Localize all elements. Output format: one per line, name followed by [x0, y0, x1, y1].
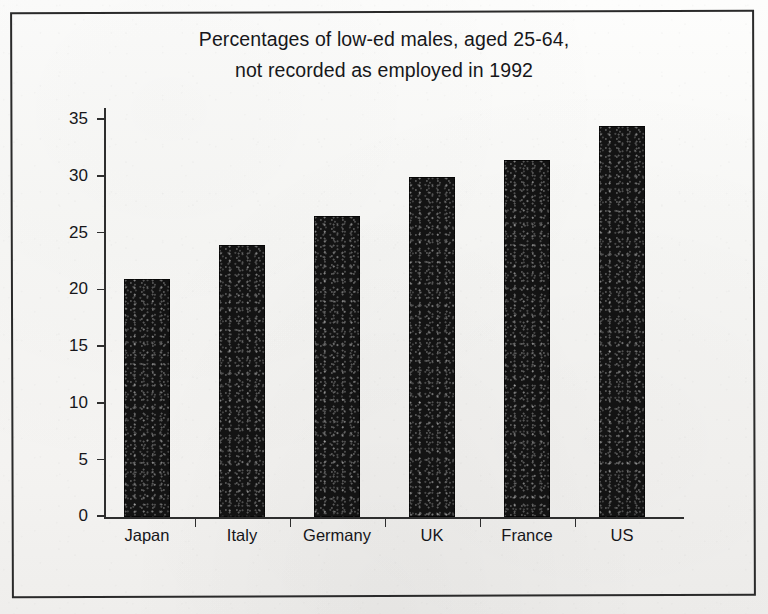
y-axis-tick-label: 15: [69, 336, 88, 356]
x-axis-tick: [290, 519, 292, 527]
x-axis-category-label: Germany: [303, 526, 371, 545]
y-axis-tick-label: 35: [69, 109, 88, 129]
y-axis-tick: 15: [97, 345, 105, 347]
chart-title: Percentages of low-ed males, aged 25-64,…: [0, 24, 768, 86]
scanned-chart-page: Percentages of low-ed males, aged 25-64,…: [0, 0, 768, 614]
y-axis-line: [104, 108, 106, 519]
y-axis-tick-label: 5: [79, 450, 88, 470]
chart-title-line-1: Percentages of low-ed males, aged 25-64,: [199, 28, 569, 50]
x-axis-tick: [385, 519, 387, 527]
y-axis-tick-label: 0: [79, 506, 88, 526]
x-axis-category-label: France: [501, 526, 552, 545]
bar: [124, 279, 170, 517]
y-axis-tick: 5: [97, 459, 105, 461]
bar: [314, 216, 360, 517]
y-axis-tick: 35: [97, 118, 105, 120]
bar: [409, 177, 455, 517]
y-axis-tick: 20: [97, 289, 105, 291]
y-axis-tick-label: 30: [69, 166, 88, 186]
bar: [599, 126, 645, 517]
y-axis-tick: 30: [97, 175, 105, 177]
plot-area: 05101520253035 JapanItalyGermanyUKFrance…: [104, 108, 684, 519]
x-axis-category-label: UK: [421, 526, 444, 545]
x-axis-category-label: Japan: [125, 526, 170, 545]
y-axis-tick: 25: [97, 232, 105, 234]
x-axis-tick: [480, 519, 482, 527]
bar: [504, 160, 550, 517]
chart-title-line-2: not recorded as employed in 1992: [235, 59, 533, 81]
x-axis-category-label: US: [611, 526, 634, 545]
x-axis-line: [104, 517, 684, 519]
x-axis-tick: [575, 519, 577, 527]
x-axis-tick: [195, 519, 197, 527]
x-axis-category-label: Italy: [227, 526, 257, 545]
y-axis-tick: 0: [97, 515, 105, 517]
bar: [219, 245, 265, 517]
y-axis-tick: 10: [97, 402, 105, 404]
y-axis-tick-label: 20: [69, 279, 88, 299]
y-axis-tick-label: 25: [69, 223, 88, 243]
y-axis-tick-label: 10: [69, 393, 88, 413]
